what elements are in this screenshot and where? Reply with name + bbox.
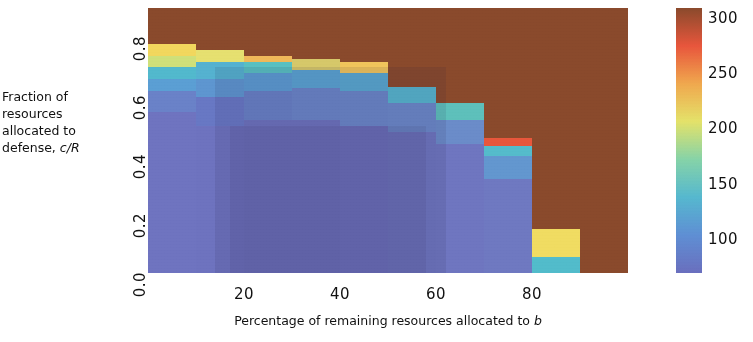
y-tick-label: 0.4 [131, 154, 149, 214]
y-axis-label-italic: c/R [60, 140, 80, 155]
heatmap-cell [196, 8, 245, 50]
colorbar-tick-label: 250 [708, 64, 738, 82]
heatmap-cell [340, 90, 389, 126]
heatmap-cell [196, 96, 245, 126]
heatmap-cell [532, 8, 581, 229]
x-axis-label-text: Percentage of remaining resources alloca… [234, 313, 534, 328]
heatmap-cell [340, 61, 389, 73]
heatmap-cell [340, 8, 389, 62]
heatmap-cell [148, 55, 197, 67]
x-axis-label-italic: b [534, 313, 542, 328]
heatmap-cell [196, 79, 245, 97]
heatmap-cell [580, 8, 628, 273]
colorbar [676, 8, 702, 273]
y-tick-label: 0.6 [131, 95, 149, 155]
y-tick-label: 0.2 [131, 213, 149, 273]
heatmap-cell [436, 120, 485, 144]
x-tick-label: 80 [509, 285, 555, 303]
x-tick-label: 40 [317, 285, 363, 303]
colorbar-tick-label: 200 [708, 119, 738, 137]
heatmap-cell [436, 8, 485, 103]
y-axis-label-line-2: resources [2, 105, 120, 122]
heatmap-cell [148, 90, 197, 111]
heatmap-cell [340, 73, 389, 91]
heatmap-cell [148, 111, 197, 273]
heatmap-cell [484, 138, 533, 146]
heatmap-cell [436, 143, 485, 273]
y-axis-label: Fraction of resources allocated to defen… [2, 88, 120, 156]
y-axis-label-line-4: defense, c/R [2, 139, 120, 156]
heatmap-cell [244, 8, 293, 56]
colorbar-tick-label: 300 [708, 9, 738, 27]
heatmap-cell [244, 90, 293, 120]
heatmap-cell [388, 102, 437, 132]
heatmap-cell [484, 155, 533, 179]
heatmap-cell [292, 70, 341, 88]
heatmap-cell [292, 88, 341, 121]
heatmap-cell [148, 43, 197, 55]
heatmap-cell [436, 102, 485, 120]
heatmap-cell [388, 86, 437, 103]
heatmap-cell [196, 126, 245, 273]
heatmap-cell [484, 8, 533, 138]
heatmap-cell [196, 61, 245, 79]
heatmap-cell [388, 8, 437, 87]
x-tick-label: 20 [221, 285, 267, 303]
heatmap-cell [388, 132, 437, 273]
colorbar-tick-label: 100 [708, 230, 738, 248]
y-axis-label-line-4-text: defense, [2, 140, 60, 155]
heatmap-cell [148, 67, 197, 79]
heatmap-cell [244, 55, 293, 61]
heatmap-cell [484, 145, 533, 156]
heatmap-cell [292, 120, 341, 273]
heatmap-cell [484, 179, 533, 273]
heatmap-cell [532, 229, 581, 258]
figure: Fraction of resources allocated to defen… [0, 0, 753, 342]
heatmap-cell [244, 120, 293, 273]
y-tick-label: 0.8 [131, 36, 149, 96]
heatmap-cell [244, 61, 293, 73]
y-tick-label: 0.0 [131, 272, 149, 332]
y-axis-label-line-3: allocated to [2, 122, 120, 139]
colorbar-tick-label: 150 [708, 175, 738, 193]
x-tick-label: 60 [413, 285, 459, 303]
x-axis-label: Percentage of remaining resources alloca… [148, 313, 628, 328]
heatmap-cell [292, 58, 341, 70]
heatmap-cell [292, 8, 341, 59]
colorbar-grain-overlay [676, 8, 702, 273]
y-axis-label-line-1: Fraction of [2, 88, 120, 105]
heatmap-plot-area [148, 8, 628, 273]
heatmap-cell [196, 49, 245, 61]
heatmap-cell [148, 79, 197, 91]
heatmap-cell [148, 8, 197, 44]
heatmap-cell [340, 126, 389, 273]
heatmap-cell [532, 257, 581, 273]
heatmap-cell [244, 73, 293, 91]
